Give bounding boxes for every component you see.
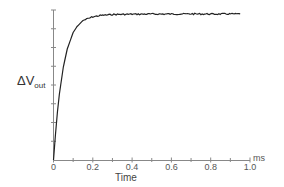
- x-axis-label: Time: [115, 172, 137, 183]
- x-tick-label: 0.8: [204, 162, 217, 172]
- x-tick-label: 0.6: [165, 162, 178, 172]
- x-tick-label: 0: [51, 162, 56, 172]
- x-axis-unit: ms: [253, 153, 265, 163]
- chart-plot: [0, 0, 284, 187]
- x-tick-label: 0.4: [126, 162, 139, 172]
- y-axis-label: ΔVout: [17, 73, 45, 88]
- x-tick-label: 1.0: [244, 162, 257, 172]
- y-axis-label-subscript: out: [34, 81, 45, 90]
- data-series-line: [54, 13, 241, 160]
- y-axis-label-main: ΔV: [17, 73, 34, 88]
- x-tick-label: 0.2: [87, 162, 100, 172]
